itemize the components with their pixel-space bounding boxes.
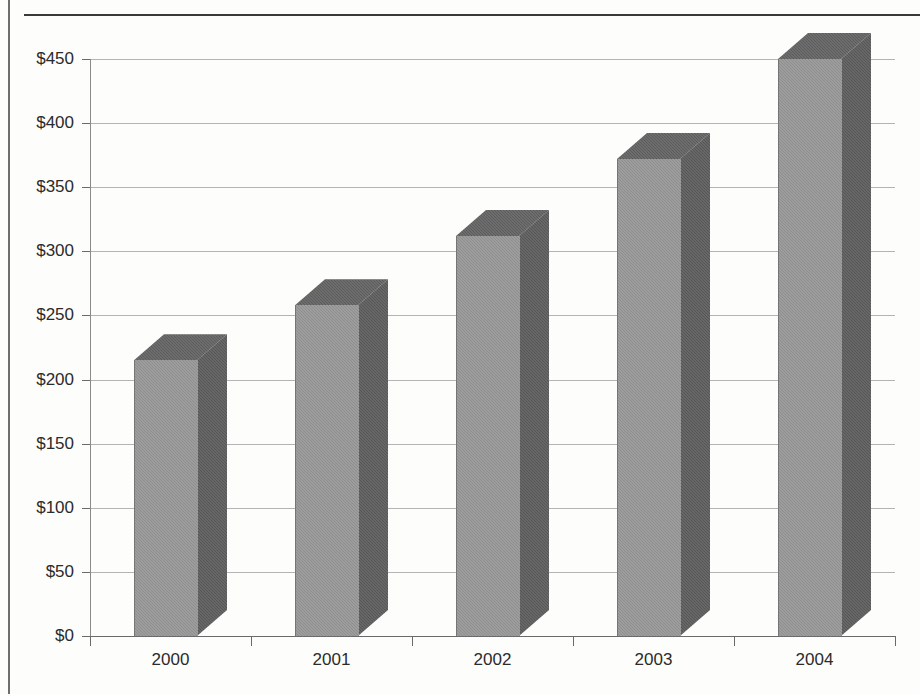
x-axis-tick-label: 2004 xyxy=(796,650,834,670)
y-axis-labels: $0$50$100$150$200$250$300$350$400$450 xyxy=(0,0,74,694)
bar-2003 xyxy=(617,133,710,636)
y-axis-tick-label: $350 xyxy=(36,177,74,197)
bar-chart: $0$50$100$150$200$250$300$350$400$450 20… xyxy=(0,0,920,694)
y-axis-tick-label: $250 xyxy=(36,305,74,325)
bar-front-face xyxy=(295,305,359,636)
y-axis-tick-label: $100 xyxy=(36,498,74,518)
bar-front-face xyxy=(134,360,198,636)
bar-side-face xyxy=(841,33,871,636)
gridline xyxy=(90,187,895,188)
bar-side-face xyxy=(680,133,710,636)
y-axis-line xyxy=(90,59,91,636)
y-axis-tick-label: $50 xyxy=(46,562,74,582)
x-axis-tick xyxy=(251,636,252,646)
bar-front-face xyxy=(778,59,842,636)
x-axis-line xyxy=(90,636,895,637)
x-axis-tick xyxy=(90,636,91,646)
x-axis-tick-label: 2000 xyxy=(152,650,190,670)
x-axis-tick xyxy=(573,636,574,646)
bar-2004 xyxy=(778,33,871,636)
x-axis-tick-label: 2002 xyxy=(474,650,512,670)
y-axis-tick-label: $150 xyxy=(36,434,74,454)
bar-front-face xyxy=(617,159,681,636)
x-axis-tick xyxy=(734,636,735,646)
bar-2000 xyxy=(134,334,227,636)
y-axis-tick-label: $200 xyxy=(36,370,74,390)
bar-2002 xyxy=(456,210,549,636)
bar-side-face xyxy=(519,210,549,636)
x-axis-tick xyxy=(412,636,413,646)
x-axis-tick xyxy=(895,636,896,646)
bar-2001 xyxy=(295,279,388,636)
y-axis-tick-label: $300 xyxy=(36,241,74,261)
bar-side-face xyxy=(358,279,388,636)
bar-side-face xyxy=(197,334,227,636)
x-axis-tick-label: 2003 xyxy=(635,650,673,670)
y-axis-tick-label: $0 xyxy=(55,626,74,646)
gridline xyxy=(90,59,895,60)
x-axis-tick-label: 2001 xyxy=(313,650,351,670)
y-axis-tick-label: $400 xyxy=(36,113,74,133)
gridline xyxy=(90,123,895,124)
y-axis-tick-label: $450 xyxy=(36,49,74,69)
bar-front-face xyxy=(456,236,520,636)
page-canvas: $0$50$100$150$200$250$300$350$400$450 20… xyxy=(0,0,920,694)
